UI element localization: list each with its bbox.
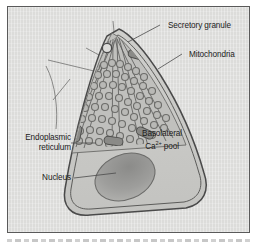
caption-text-line [7,239,250,242]
label-nucleus-text: Nucleus [42,173,71,182]
label-secretory-granule-text: Secretory granule [168,21,231,30]
label-basolateral-line1: Basolateral [126,129,198,139]
label-secretory-granule: Secretory granule [168,21,231,31]
label-ca-pool-line2: Ca2+ pool [126,139,198,151]
label-basolateral-ca-pool: Basolateral Ca2+ pool [126,129,198,151]
apical-notch [102,43,111,52]
label-nucleus: Nucleus [8,173,71,183]
leader-mitochondria [158,54,182,69]
caption-strip [7,236,250,247]
label-mitochondria-text: Mitochondria [189,50,235,59]
cell-diagram [8,7,250,233]
pool-word: pool [162,141,179,150]
figure-frame: Secretory granule Mitochondria Endoplasm… [7,6,250,233]
label-endoplasmic-reticulum-line1: Endoplasmic [8,133,71,143]
ca-symbol: Ca [145,141,155,150]
figure-canvas: Secretory granule Mitochondria Endoplasm… [0,0,257,249]
label-endoplasmic-reticulum: Endoplasmic reticulum [8,133,71,152]
leader-secretory-granule [128,25,160,42]
label-endoplasmic-reticulum-line2: reticulum [8,143,71,153]
label-mitochondria: Mitochondria [189,50,235,60]
